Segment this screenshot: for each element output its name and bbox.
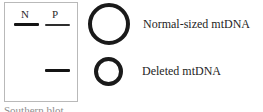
gel-lane-label-n: N: [13, 9, 37, 20]
legend-label-deleted-mtdna: Deleted mtDNA: [142, 64, 221, 78]
legend-label-normal-mtdna: Normal-sized mtDNA: [143, 17, 250, 31]
gel-caption: Southern blot: [4, 104, 64, 112]
gel-band-n-normal: [14, 23, 39, 26]
large-circle-icon: [88, 3, 130, 45]
gel-band-p-deleted: [45, 69, 70, 72]
mtdna-southern-blot-figure: N P Southern blot Normal-sized mtDNA Del…: [0, 0, 263, 112]
legend-item-deleted-mtdna: Deleted mtDNA: [88, 55, 221, 87]
small-circle-icon: [94, 57, 123, 86]
gel-panel: N P: [4, 2, 78, 102]
gel-band-p-normal: [45, 24, 70, 26]
gel-lane-label-p: P: [43, 9, 67, 20]
legend-item-normal-mtdna: Normal-sized mtDNA: [88, 3, 250, 45]
